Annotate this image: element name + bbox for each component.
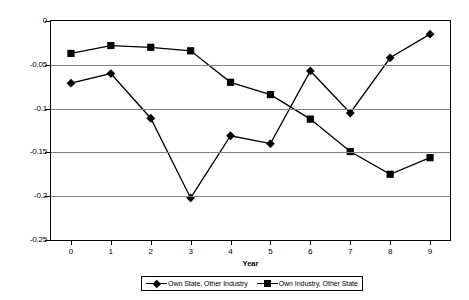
y-axis-tick-label: -0.1: [17, 105, 47, 113]
x-axis-tick-label: 4: [219, 247, 243, 257]
x-axis-tick-label: 6: [298, 247, 322, 257]
y-axis-tick-labels: 0-0.05-0.1-0.15-0.2-0.25: [14, 0, 47, 300]
x-axis-tick-mark: [310, 241, 311, 245]
x-axis-tick-label: 1: [99, 247, 123, 257]
gridline: [51, 152, 450, 153]
x-axis-tick-mark: [231, 241, 232, 245]
data-point-marker: [147, 44, 154, 51]
x-axis-tick-mark: [350, 241, 351, 245]
data-point-marker: [426, 30, 435, 39]
chart-legend: Own State, Other IndustryOwn Industry, O…: [141, 276, 363, 291]
data-point-marker: [386, 53, 395, 62]
legend-entry: Own Industry, Other State: [257, 279, 358, 288]
series-layer: [51, 21, 450, 240]
x-axis-tick-mark: [191, 241, 192, 245]
legend-square-marker-icon: [257, 279, 278, 288]
x-axis-tick-mark: [111, 241, 112, 245]
x-axis-title: Year: [50, 259, 451, 269]
y-axis-tick-label: -0.2: [17, 192, 47, 200]
x-axis-tick-label: 5: [258, 247, 282, 257]
y-axis-tick-label: -0.25: [17, 236, 47, 244]
x-axis-tick-mark: [270, 241, 271, 245]
x-axis-tick-label: 8: [378, 247, 402, 257]
data-point-marker: [266, 139, 275, 148]
y-axis-tick-label: 0: [17, 17, 47, 25]
legend-diamond-marker-icon: [146, 279, 167, 288]
legend-entry: Own State, Other Industry: [146, 279, 248, 288]
gridline: [51, 109, 450, 110]
plot-area: [50, 20, 451, 241]
data-point-marker: [307, 116, 314, 123]
x-axis-tick-label: 2: [139, 247, 163, 257]
series-line: [71, 34, 430, 198]
x-axis-tick-marks: [50, 241, 451, 246]
data-point-marker: [226, 131, 235, 140]
data-point-marker: [267, 91, 274, 98]
x-axis-tick-mark: [430, 241, 431, 245]
gridline: [51, 65, 450, 66]
y-axis-tick-label: -0.15: [17, 148, 47, 156]
data-point-marker: [426, 154, 433, 161]
line-chart: Effect of Shock on Wages (percent) 0-0.0…: [0, 0, 469, 300]
x-axis-tick-labels: 0123456789: [50, 247, 451, 259]
x-axis-tick-label: 3: [179, 247, 203, 257]
data-point-marker: [227, 79, 234, 86]
data-point-marker: [186, 194, 195, 203]
data-point-marker: [187, 47, 194, 54]
x-axis-tick-label: 7: [338, 247, 362, 257]
x-axis-tick-mark: [390, 241, 391, 245]
y-axis-tick-label: -0.05: [17, 61, 47, 69]
data-point-marker: [387, 171, 394, 178]
legend-label: Own Industry, Other State: [279, 279, 358, 288]
x-axis-tick-mark: [151, 241, 152, 245]
data-point-marker: [107, 42, 114, 49]
legend-label: Own State, Other Industry: [168, 279, 248, 288]
gridline: [51, 196, 450, 197]
data-point-marker: [67, 50, 74, 57]
x-axis-tick-mark: [71, 241, 72, 245]
data-point-marker: [67, 79, 76, 88]
x-axis-tick-label: 0: [59, 247, 83, 257]
x-axis-tick-label: 9: [418, 247, 442, 257]
